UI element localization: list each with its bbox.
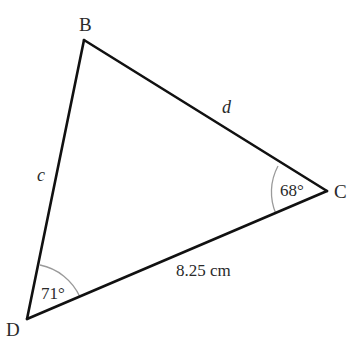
side-label-d: d: [222, 97, 232, 117]
vertex-label-c: C: [334, 181, 347, 202]
vertex-label-d: D: [6, 319, 20, 340]
angle-label-d: 71°: [41, 284, 65, 303]
triangle-diagram: B C D c d 8.25 cm 68° 71°: [0, 0, 361, 352]
angle-label-c: 68°: [280, 181, 304, 200]
side-bc: [84, 40, 327, 191]
angle-arc-c: [271, 166, 278, 214]
triangle-svg: B C D c d 8.25 cm 68° 71°: [0, 0, 361, 352]
side-dc: [27, 191, 327, 319]
side-bd: [27, 40, 84, 319]
side-label-c: c: [37, 165, 45, 185]
vertex-label-b: B: [79, 14, 92, 35]
side-label-dc-length: 8.25 cm: [176, 261, 231, 280]
